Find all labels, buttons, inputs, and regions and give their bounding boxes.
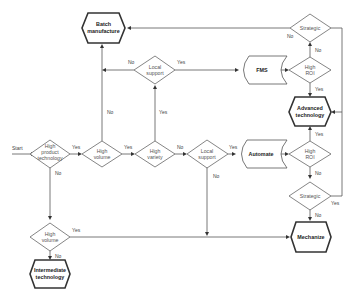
fms-node: FMS <box>244 56 288 84</box>
edge-label: No <box>315 212 322 218</box>
edge-label: Yes <box>315 86 324 92</box>
edge-label: Yes <box>72 227 81 233</box>
high-roi-top-decision: High ROI <box>289 57 331 83</box>
high-volume-decision-1: High volume <box>82 141 122 167</box>
label: ROI <box>305 154 314 160</box>
edge-label: No <box>128 59 135 65</box>
label: volume <box>42 237 59 243</box>
edge-label: No <box>213 173 220 179</box>
local-support-top-decision: Local support <box>134 56 175 84</box>
batch-line1: Batch <box>96 21 111 27</box>
edge-label: No <box>55 170 62 176</box>
batch-line2: manufacture <box>87 28 119 34</box>
local-support-mid-decision: Local support <box>187 140 228 168</box>
edge-label: Yes <box>72 144 81 150</box>
edge-label: No <box>107 109 114 115</box>
intermediate-technology-node: Intermediate technology <box>30 260 70 288</box>
flowchart: Batch manufacture Local support FMS Stra… <box>0 0 354 307</box>
mechanize-node: Mechanize <box>291 222 331 252</box>
edge-label: No <box>177 144 184 150</box>
label: technology <box>37 155 62 161</box>
edge-label: No <box>315 170 322 176</box>
label: Intermediate <box>34 267 66 273</box>
edge-label: Yes <box>177 59 186 65</box>
automate-node: Automate <box>242 140 288 168</box>
edge-label: Yes <box>159 109 168 115</box>
label: variety <box>147 154 163 160</box>
start-label: Start <box>12 145 23 151</box>
label: Strategic <box>300 25 321 31</box>
label: Mechanize <box>297 234 324 240</box>
label: support <box>146 70 164 76</box>
edge-label: No <box>55 253 62 259</box>
edge-label: No <box>315 47 322 53</box>
label: volume <box>94 154 111 160</box>
advanced-technology-node: Advanced technology <box>289 97 331 126</box>
batch-manufacture-node: Batch manufacture <box>82 13 125 43</box>
high-variety-decision: High variety <box>135 141 175 167</box>
label: Automate <box>249 151 274 157</box>
edge-label: Yes <box>331 200 340 206</box>
edge-label: Yes <box>124 144 133 150</box>
strategic-top-decision: Strategic <box>290 14 331 42</box>
strategic-bottom-decision: Strategic <box>289 182 331 210</box>
edge-label: No <box>287 33 294 39</box>
high-product-technology-decision: High product technology <box>30 140 70 168</box>
label: technology <box>296 112 325 118</box>
label: support <box>198 154 216 160</box>
high-roi-bottom-decision: High ROI <box>289 141 331 167</box>
label: Strategic <box>300 193 321 199</box>
edge-label: Yes <box>229 144 238 150</box>
label: technology <box>36 274 65 280</box>
label: FMS <box>256 67 268 73</box>
label: Advanced <box>297 105 323 111</box>
high-volume-decision-2: High volume <box>30 223 70 251</box>
edge-label: Yes <box>315 131 324 137</box>
label: ROI <box>305 70 314 76</box>
